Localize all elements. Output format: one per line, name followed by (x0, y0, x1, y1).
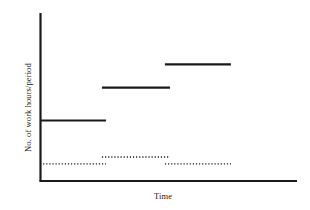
chart-plot-area (0, 0, 310, 210)
y-axis-label: No. of work hours/period (24, 22, 33, 152)
chart-figure: No. of work hours/period Time (0, 0, 310, 210)
x-axis-label: Time (8, 192, 310, 201)
